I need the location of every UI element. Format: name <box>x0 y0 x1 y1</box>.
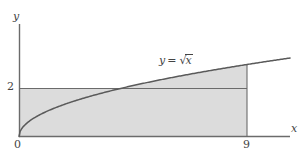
plot-svg <box>0 0 305 159</box>
x-tick-label-9: 9 <box>243 139 250 150</box>
x-axis-label: x <box>291 123 297 134</box>
shaded-rectangle-region <box>19 89 247 137</box>
equation-equals: = <box>165 54 178 67</box>
y-tick-label-2: 2 <box>7 81 14 92</box>
curve-equation-label: y=√x <box>159 54 193 66</box>
origin-tick-label: 0 <box>14 139 21 150</box>
radical-argument: x <box>185 54 192 66</box>
y-axis-label: y <box>13 11 19 22</box>
figure-container: y x 0 2 9 y=√x <box>0 0 305 159</box>
radical-group: √x <box>178 54 192 66</box>
